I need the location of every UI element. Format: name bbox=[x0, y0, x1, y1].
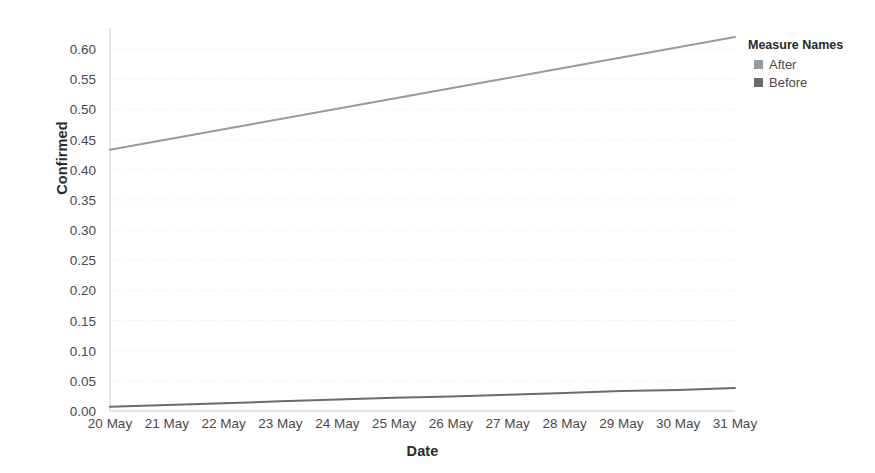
x-axis-tick-label: 21 May bbox=[145, 416, 189, 431]
y-axis-tick-label: 0.30 bbox=[70, 223, 96, 238]
series-line-after bbox=[110, 37, 735, 150]
series-line-before bbox=[110, 388, 735, 407]
legend-item-before[interactable]: Before bbox=[748, 75, 868, 90]
y-axis-tick-label: 0.05 bbox=[70, 373, 96, 388]
chart-container: Confirmed 0.000.050.100.150.200.250.300.… bbox=[0, 0, 875, 473]
y-axis-tick-label: 0.10 bbox=[70, 343, 96, 358]
y-axis-tick-label: 0.25 bbox=[70, 253, 96, 268]
plot-canvas bbox=[110, 28, 735, 411]
legend-item-label: Before bbox=[769, 75, 807, 90]
y-axis-tick-label: 0.45 bbox=[70, 132, 96, 147]
legend: Measure Names AfterBefore bbox=[748, 38, 868, 93]
axis-spines bbox=[110, 28, 735, 411]
x-axis-tick-label: 28 May bbox=[542, 416, 586, 431]
x-axis-tick-label: 22 May bbox=[201, 416, 245, 431]
x-axis-title: Date bbox=[110, 443, 735, 459]
x-axis-tick-labels: 20 May21 May22 May23 May24 May25 May26 M… bbox=[110, 416, 735, 438]
y-axis-tick-label: 0.40 bbox=[70, 162, 96, 177]
legend-item-after[interactable]: After bbox=[748, 57, 868, 72]
data-series-group bbox=[110, 37, 735, 407]
y-axis-tick-label: 0.20 bbox=[70, 283, 96, 298]
y-axis-tick-label: 0.60 bbox=[70, 42, 96, 57]
gridlines bbox=[110, 49, 735, 411]
y-axis-tick-label: 0.15 bbox=[70, 313, 96, 328]
legend-swatch-icon bbox=[754, 78, 763, 87]
x-axis-tick-label: 20 May bbox=[88, 416, 132, 431]
plot-area bbox=[110, 28, 735, 411]
x-axis-tick-label: 25 May bbox=[372, 416, 416, 431]
x-axis-tick-label: 26 May bbox=[429, 416, 473, 431]
x-axis-tick-label: 30 May bbox=[656, 416, 700, 431]
y-axis-tick-label: 0.55 bbox=[70, 72, 96, 87]
x-axis-tick-label: 24 May bbox=[315, 416, 359, 431]
y-axis-tick-label: 0.50 bbox=[70, 102, 96, 117]
legend-swatch-icon bbox=[754, 60, 763, 69]
x-axis-tick-label: 23 May bbox=[258, 416, 302, 431]
x-axis-tick-label: 31 May bbox=[713, 416, 757, 431]
legend-title: Measure Names bbox=[748, 38, 868, 52]
legend-item-label: After bbox=[769, 57, 796, 72]
y-axis-tick-label: 0.35 bbox=[70, 192, 96, 207]
y-axis-tick-labels: 0.000.050.100.150.200.250.300.350.400.45… bbox=[0, 28, 104, 411]
x-axis-tick-label: 27 May bbox=[486, 416, 530, 431]
x-axis-tick-label: 29 May bbox=[599, 416, 643, 431]
legend-items: AfterBefore bbox=[748, 57, 868, 90]
